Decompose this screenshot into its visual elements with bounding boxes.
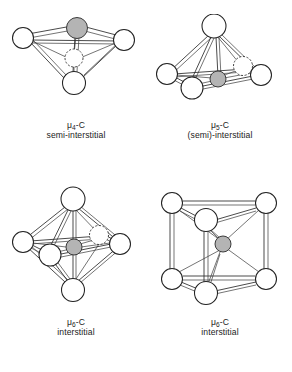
trigonal-prism-drawing [150, 186, 290, 306]
panel-caption: μ4-C semi-interstitial [46, 120, 105, 141]
carbide-atom [66, 239, 82, 255]
caption-suffix: -C [76, 317, 85, 327]
metal-vertex [114, 30, 135, 51]
caption-line-descriptor: semi-interstitial [46, 130, 105, 140]
metal-vertex [110, 234, 131, 255]
square-pyramid-svg [150, 14, 290, 109]
metal-vertex-shaded [67, 18, 88, 39]
panel-caption: μ5-C (semi)-interstitial [188, 120, 253, 141]
mu-subscript: 6 [216, 321, 220, 328]
carbide-atom [215, 236, 231, 252]
metal-vertex-apex-top [61, 187, 85, 211]
metal-vertex [13, 232, 34, 253]
metal-vertex [39, 244, 61, 266]
caption-line-formula: μ6-C [201, 317, 239, 327]
caption-line-descriptor: interstitial [201, 327, 239, 337]
caption-line-formula: μ5-C [188, 120, 253, 130]
square-pyramid-drawing [150, 14, 290, 109]
carbide-atom-hidden [65, 49, 83, 67]
carbide-atom [210, 71, 226, 87]
caption-line-formula: μ4-C [46, 120, 105, 130]
metal-vertex-apex-bottom [62, 279, 85, 302]
octahedron-svg [6, 186, 146, 306]
tetrahedron-drawing [6, 14, 146, 109]
metal-vertex [13, 28, 34, 49]
panel-mu5-c: μ5-C (semi)-interstitial [150, 14, 290, 141]
metal-vertex [195, 282, 218, 305]
octahedron-drawing [6, 186, 146, 306]
metal-vertex-apex [202, 14, 226, 38]
mu-subscript: 5 [216, 124, 220, 131]
caption-line-descriptor: interstitial [57, 327, 95, 337]
metal-vertex [181, 77, 203, 99]
panel-mu6-c-octahedron: μ6-C interstitial [6, 186, 146, 338]
metal-vertex-hidden [234, 57, 253, 76]
metal-vertex [162, 193, 183, 214]
metal-vertex [256, 193, 277, 214]
mu-subscript: 6 [72, 321, 76, 328]
trigonal-prism-svg [150, 186, 290, 306]
caption-line-formula: μ6-C [57, 317, 95, 327]
caption-suffix: -C [220, 317, 229, 327]
panel-caption: μ6-C interstitial [201, 317, 239, 338]
tetrahedron-svg [6, 14, 146, 109]
caption-suffix: -C [76, 120, 85, 130]
metal-vertex [63, 72, 86, 95]
metal-vertex [195, 209, 218, 232]
caption-suffix: -C [220, 120, 229, 130]
panel-mu4-c: μ4-C semi-interstitial [6, 14, 146, 141]
metal-vertex [162, 269, 183, 290]
panel-mu6-c-prism: μ6-C interstitial [150, 186, 290, 338]
caption-line-descriptor: (semi)-interstitial [188, 130, 253, 140]
metal-vertex [256, 269, 277, 290]
metal-vertex-hidden [90, 226, 109, 245]
panel-caption: μ6-C interstitial [57, 317, 95, 338]
mu-subscript: 4 [72, 124, 76, 131]
metal-vertex [251, 65, 272, 86]
metal-vertex [157, 64, 178, 85]
cluster-geometry-figure: μ4-C semi-interstitial [0, 0, 292, 372]
